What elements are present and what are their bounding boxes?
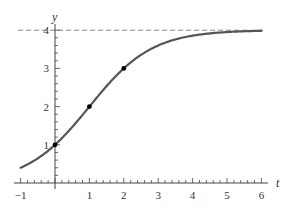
y-tick-label: 3 bbox=[44, 62, 50, 74]
y-tick-label: 1 bbox=[44, 139, 50, 151]
y-tick-label: 2 bbox=[44, 101, 50, 113]
x-tick-label: 1 bbox=[87, 189, 93, 201]
data-point bbox=[87, 104, 92, 109]
x-tick-label: 2 bbox=[121, 189, 127, 201]
y-axis-label: y bbox=[51, 10, 58, 24]
tick-labels: −11234561234 bbox=[15, 24, 265, 201]
x-tick-label: 3 bbox=[155, 189, 161, 201]
x-tick-label: 4 bbox=[190, 189, 196, 201]
logistic-chart: −11234561234 t y bbox=[0, 0, 293, 209]
data-point bbox=[53, 142, 58, 147]
axis-ticks bbox=[21, 30, 262, 183]
x-tick-label: −1 bbox=[15, 189, 27, 201]
data-point bbox=[121, 66, 126, 71]
x-axis-label: t bbox=[276, 176, 280, 190]
y-tick-label: 4 bbox=[44, 24, 50, 36]
x-tick-label: 6 bbox=[259, 189, 265, 201]
axes bbox=[14, 24, 268, 189]
x-tick-label: 5 bbox=[224, 189, 230, 201]
